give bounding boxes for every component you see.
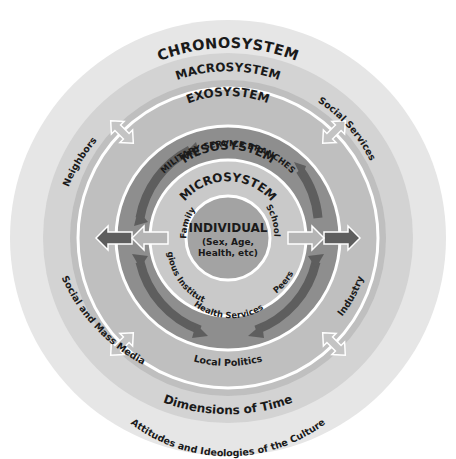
- individual-detail-line2: Health, etc): [198, 248, 258, 258]
- individual-detail-line1: (Sex, Age,: [202, 237, 254, 247]
- individual-title: INDIVIDUAL: [189, 221, 268, 235]
- ecological-systems-diagram: CHRONOSYSTEM MACROSYSTEM EXOSYSTEM MILIT…: [0, 0, 456, 459]
